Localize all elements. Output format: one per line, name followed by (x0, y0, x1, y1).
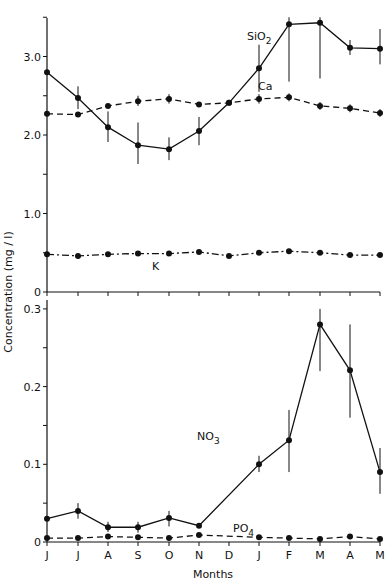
series-line-po4 (47, 535, 380, 539)
data-point-po4 (166, 535, 172, 541)
series-label-sio2: SiO2 (247, 30, 271, 46)
data-point-no3 (286, 437, 292, 443)
data-point-po4 (196, 532, 202, 538)
data-point-sio2 (166, 146, 172, 152)
data-point-ca (75, 112, 81, 118)
data-point-no3 (317, 321, 323, 327)
data-point-sio2 (286, 21, 292, 27)
data-point-no3 (377, 469, 383, 475)
series-line-k (47, 251, 380, 256)
data-point-po4 (317, 536, 323, 542)
data-point-sio2 (75, 95, 81, 101)
data-point-k (75, 253, 81, 259)
x-tick-label: S (135, 549, 142, 562)
data-point-ca (226, 100, 232, 106)
data-point-ca (135, 98, 141, 104)
series-line-ca (47, 97, 380, 114)
lower-panel-no3-po4: 00.10.20.3NO3PO4 (24, 300, 384, 549)
data-point-po4 (135, 534, 141, 540)
data-point-sio2 (347, 45, 353, 51)
x-tick-label: M (315, 549, 325, 562)
y-axis-title: Concentration (mg / l) (2, 231, 15, 352)
data-point-ca (44, 111, 50, 117)
data-point-po4 (105, 534, 111, 540)
y-tick-label: 0.2 (24, 381, 42, 394)
x-tick-label: F (286, 549, 292, 562)
data-point-ca (317, 103, 323, 109)
y-tick-label: 0 (34, 536, 41, 549)
data-point-ca (347, 105, 353, 111)
data-point-ca (256, 96, 262, 102)
data-point-po4 (44, 535, 50, 541)
series-label-ca: Ca (258, 80, 272, 93)
x-axis-month-labels: JJASONDJFMAM (44, 549, 384, 562)
data-point-no3 (135, 524, 141, 530)
data-point-no3 (256, 461, 262, 467)
data-point-sio2 (256, 65, 262, 71)
concentration-chart: 01.02.03.0SiO2CaK 00.10.20.3NO3PO4 JJASO… (0, 0, 388, 583)
x-tick-label: A (104, 549, 112, 562)
x-axis-title: Months (193, 568, 233, 581)
data-point-no3 (347, 367, 353, 373)
y-tick-label: 2.0 (24, 129, 42, 142)
y-tick-label: 1.0 (24, 208, 42, 221)
x-tick-label: J (256, 549, 260, 562)
data-point-po4 (286, 535, 292, 541)
data-point-ca (377, 110, 383, 116)
data-point-k (44, 251, 50, 257)
data-point-no3 (44, 516, 50, 522)
data-point-po4 (75, 535, 81, 541)
data-point-sio2 (105, 124, 111, 130)
data-point-po4 (256, 534, 262, 540)
x-tick-label: M (375, 549, 385, 562)
data-point-no3 (196, 523, 202, 529)
data-point-ca (286, 94, 292, 100)
data-point-k (135, 251, 141, 257)
data-point-k (256, 250, 262, 256)
x-tick-label: A (346, 549, 354, 562)
upper-panel-siO2-ca-k: 01.02.03.0SiO2CaK (24, 17, 384, 299)
data-point-sio2 (135, 142, 141, 148)
data-point-no3 (75, 508, 81, 514)
x-tick-label: O (165, 549, 174, 562)
series-label-k: K (152, 260, 160, 273)
data-point-po4 (347, 534, 353, 540)
y-tick-label: 0.1 (24, 458, 42, 471)
y-tick-label: 0 (34, 286, 41, 299)
data-point-k (105, 251, 111, 257)
data-point-k (166, 251, 172, 257)
data-point-k (226, 253, 232, 259)
data-point-sio2 (377, 46, 383, 52)
x-tick-label: D (225, 549, 233, 562)
data-point-no3 (105, 524, 111, 530)
series-label-no3: NO3 (197, 430, 220, 446)
data-point-sio2 (44, 69, 50, 75)
data-point-ca (105, 103, 111, 109)
series-line-sio2 (47, 23, 380, 149)
series-label-po4: PO4 (233, 522, 254, 538)
x-tick-label: J (44, 549, 48, 562)
data-point-ca (196, 101, 202, 107)
data-point-sio2 (196, 128, 202, 134)
data-point-k (377, 252, 383, 258)
y-tick-label: 0.3 (24, 303, 42, 316)
data-point-sio2 (317, 20, 323, 26)
data-point-k (196, 249, 202, 255)
x-tick-label: J (75, 549, 79, 562)
data-point-k (347, 252, 353, 258)
data-point-k (317, 250, 323, 256)
series-line-no3 (47, 324, 380, 527)
y-tick-label: 3.0 (24, 51, 42, 64)
data-point-no3 (166, 515, 172, 521)
data-point-k (286, 248, 292, 254)
x-tick-label: N (195, 549, 203, 562)
data-point-ca (166, 96, 172, 102)
data-point-po4 (377, 536, 383, 542)
